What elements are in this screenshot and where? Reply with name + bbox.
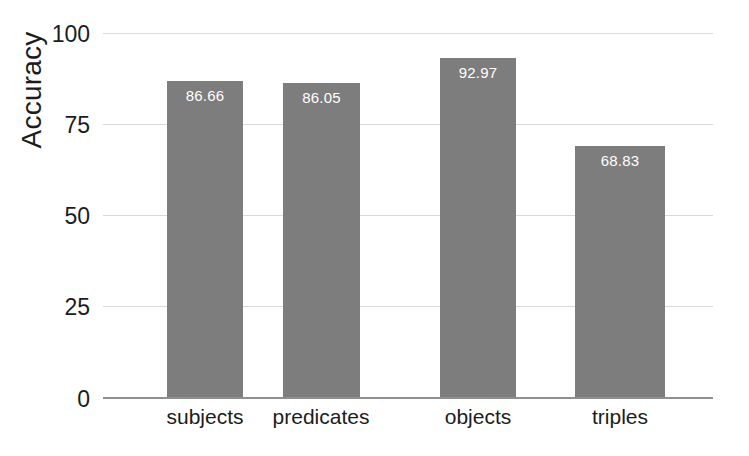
- y-axis-tick-labels: 100 75 50 25 0: [12, 20, 90, 410]
- bar-value-subjects: 86.66: [167, 88, 243, 105]
- x-axis-label-predicates: predicates: [241, 404, 401, 429]
- bar-value-predicates: 86.05: [283, 90, 360, 107]
- y-tick-label-50: 50: [20, 205, 90, 228]
- bar-predicates[interactable]: 86.05: [283, 83, 360, 397]
- bar-objects[interactable]: 92.97: [440, 58, 516, 397]
- x-axis-label-triples: triples: [540, 404, 700, 429]
- bar-chart: Accuracy 100 75 50 25 0 86.66 86.05 92.9…: [0, 0, 749, 456]
- axis-baseline: [103, 397, 713, 399]
- x-axis-label-objects: objects: [398, 404, 558, 429]
- plot-area: 86.66 86.05 92.97 68.83: [103, 20, 715, 410]
- y-tick-label-75: 75: [20, 114, 90, 137]
- y-tick-label-25: 25: [20, 296, 90, 319]
- y-tick-label-100: 100: [20, 23, 90, 46]
- bar-triples[interactable]: 68.83: [575, 146, 665, 397]
- y-tick-label-0: 0: [20, 388, 90, 411]
- bar-value-objects: 92.97: [440, 65, 516, 82]
- bar-value-triples: 68.83: [575, 153, 665, 170]
- bar-subjects[interactable]: 86.66: [167, 81, 243, 397]
- gridline-100: [103, 33, 713, 34]
